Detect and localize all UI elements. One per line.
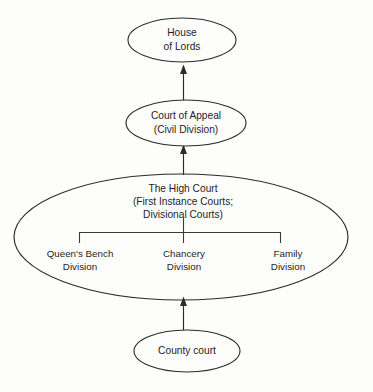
county-court-label: County court bbox=[158, 345, 216, 356]
queens-bench-label-line1: Queen's Bench bbox=[47, 248, 114, 259]
node-county-court[interactable]: County court bbox=[134, 330, 240, 372]
division-family[interactable]: Family Division bbox=[271, 248, 305, 272]
chancery-label-line2: Division bbox=[167, 261, 201, 272]
node-house-of-lords[interactable]: House of Lords bbox=[128, 18, 236, 62]
chancery-label-line1: Chancery bbox=[163, 248, 205, 259]
divisions-bracket bbox=[79, 218, 281, 243]
high-court-label-line1: The High Court bbox=[148, 183, 217, 194]
arrow-court-of-appeal-to-house-of-lords bbox=[180, 65, 187, 101]
queens-bench-label-line2: Division bbox=[63, 261, 97, 272]
house-of-lords-label-line2: of Lords bbox=[164, 41, 201, 52]
high-court-label-line2: (First Instance Courts; bbox=[133, 196, 233, 207]
court-hierarchy-diagram: House of Lords Court of Appeal (Civil Di… bbox=[0, 0, 373, 392]
diagram-canvas: House of Lords Court of Appeal (Civil Di… bbox=[0, 0, 373, 392]
house-of-lords-label-line1: House bbox=[167, 27, 197, 38]
node-court-of-appeal[interactable]: Court of Appeal (Civil Division) bbox=[126, 100, 246, 146]
family-label-line1: Family bbox=[274, 248, 303, 259]
arrow-county-court-to-high-court bbox=[180, 297, 187, 331]
node-high-court[interactable]: The High Court (First Instance Courts; D… bbox=[14, 174, 348, 300]
court-of-appeal-label-line2: (Civil Division) bbox=[154, 124, 219, 135]
court-of-appeal-label-line1: Court of Appeal bbox=[151, 110, 221, 121]
division-queens-bench[interactable]: Queen's Bench Division bbox=[47, 248, 114, 272]
family-label-line2: Division bbox=[271, 261, 305, 272]
arrow-high-court-to-court-of-appeal bbox=[180, 145, 187, 176]
division-chancery[interactable]: Chancery Division bbox=[163, 248, 205, 272]
